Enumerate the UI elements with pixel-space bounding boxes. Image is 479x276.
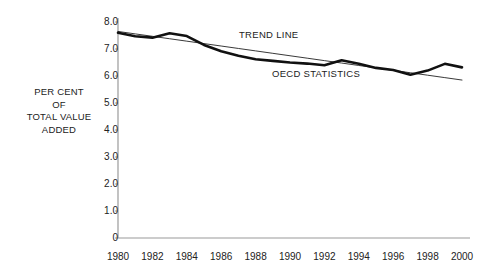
x-axis-tick-labels: 1980198219841986198819901992199419961998… (0, 252, 479, 272)
y-tick-label: 4.0 (88, 125, 118, 135)
y-tick-label: 0 (88, 233, 118, 243)
y-tick-label: 3.0 (88, 152, 118, 162)
oecd-statistics-annotation: OECD STATISTICS (272, 68, 360, 79)
axis-lines (115, 18, 470, 238)
y-axis-tick-labels: 01.02.03.04.05.06.07.08.0 (86, 0, 118, 276)
y-tick-label: 8.0 (88, 17, 118, 27)
y-tick-label: 7.0 (88, 44, 118, 54)
x-tick-label: 2000 (442, 252, 479, 262)
plot-area (0, 0, 479, 276)
trend-line-annotation: TREND LINE (239, 29, 298, 40)
chart-container: PER CENT OF TOTAL VALUE ADDED 01.02.03.0… (0, 0, 479, 276)
y-tick-label: 2.0 (88, 179, 118, 189)
y-tick-label: 1.0 (88, 206, 118, 216)
y-tick-label: 6.0 (88, 71, 118, 81)
y-tick-label: 5.0 (88, 98, 118, 108)
